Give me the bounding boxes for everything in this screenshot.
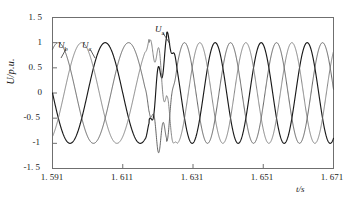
x-tick-label: 1. 611	[99, 172, 145, 182]
series-label-uc-sub: c	[89, 45, 92, 52]
y-tick-label: 0	[8, 87, 42, 97]
series-label-uc: Uc	[82, 40, 91, 52]
x-tick-label: 1. 671	[309, 172, 355, 182]
x-tick-label: 1. 631	[169, 172, 215, 182]
x-tick-label: 1. 651	[239, 172, 285, 182]
y-tick-label: 1	[8, 37, 42, 47]
series-label-ua: Ua	[155, 24, 164, 36]
y-tick-label: -1. 5	[6, 162, 40, 172]
x-axis-label: t/s	[296, 184, 305, 194]
plot-frame	[53, 18, 334, 169]
y-tick-label: 0. 5	[8, 62, 42, 72]
voltage-waveform-figure: U/p.u. t/s 1. 5 1 0. 5 0 -0. 5 -1 -1. 5 …	[0, 0, 356, 208]
series-label-ub: Ub	[58, 40, 68, 52]
y-tick-label: -1	[6, 137, 40, 147]
y-tick-label: -0. 5	[6, 112, 40, 122]
y-tick-label: 1. 5	[8, 12, 42, 22]
series-label-ua-sub: a	[162, 29, 165, 36]
x-tick-label: 1. 591	[29, 172, 75, 182]
series-label-ub-sub: b	[65, 45, 68, 52]
